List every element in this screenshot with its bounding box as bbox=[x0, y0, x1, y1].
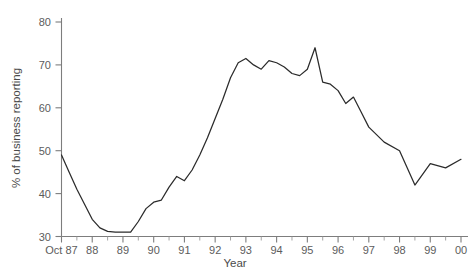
x-tick-label: 99 bbox=[424, 244, 436, 256]
x-tick-label: 00 bbox=[455, 244, 467, 256]
series-line bbox=[62, 48, 462, 232]
x-axis: Oct 8788899091929394959697989900 Year bbox=[45, 237, 468, 270]
y-tick-label: 80 bbox=[39, 16, 51, 28]
x-tick-label: 88 bbox=[86, 244, 98, 256]
y-tick-label: 70 bbox=[39, 59, 51, 71]
x-tick-label: 92 bbox=[209, 244, 221, 256]
x-tick-label: 89 bbox=[117, 244, 129, 256]
y-tick-label: 30 bbox=[39, 231, 51, 243]
x-tick-label: 90 bbox=[148, 244, 160, 256]
x-tick-label: 96 bbox=[332, 244, 344, 256]
x-tick-label: 93 bbox=[240, 244, 252, 256]
line-chart: 304050607080 % of business reporting Oct… bbox=[0, 0, 474, 276]
x-tick-label: 97 bbox=[363, 244, 375, 256]
y-tick-label: 60 bbox=[39, 102, 51, 114]
x-axis-ticks bbox=[62, 237, 462, 243]
y-tick-label: 40 bbox=[39, 188, 51, 200]
x-tick-label: 98 bbox=[393, 244, 405, 256]
data-series-group bbox=[62, 48, 462, 232]
chart-canvas: 304050607080 % of business reporting Oct… bbox=[0, 0, 474, 276]
x-tick-label: 94 bbox=[270, 244, 282, 256]
y-axis-title: % of business reporting bbox=[10, 68, 22, 188]
y-axis-ticks bbox=[56, 22, 62, 237]
y-axis-tick-labels: 304050607080 bbox=[39, 16, 51, 243]
x-tick-label: 95 bbox=[301, 244, 313, 256]
x-tick-label: 91 bbox=[178, 244, 190, 256]
y-axis: 304050607080 % of business reporting bbox=[10, 16, 62, 243]
y-tick-label: 50 bbox=[39, 145, 51, 157]
x-axis-tick-labels: Oct 8788899091929394959697989900 bbox=[45, 244, 467, 256]
x-tick-label: Oct 87 bbox=[45, 244, 77, 256]
x-axis-title: Year bbox=[223, 257, 246, 269]
